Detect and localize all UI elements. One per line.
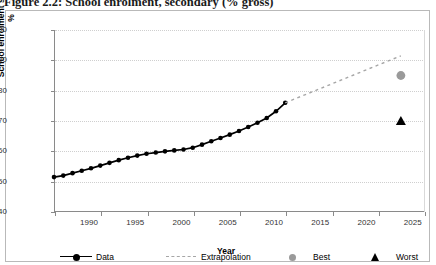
y-tick-label-70: 70 bbox=[0, 117, 7, 125]
x-tick-label-2010: 2010 bbox=[254, 218, 294, 227]
x-tick-label-2020: 2020 bbox=[347, 218, 387, 227]
y-tick-mark-80 bbox=[51, 91, 55, 92]
line-diamond-icon bbox=[60, 250, 92, 264]
chart-legend: DataExtrapolationBestWorst bbox=[5, 250, 430, 264]
gridline-y-70 bbox=[55, 121, 425, 122]
gridline-y-60 bbox=[55, 151, 425, 152]
x-tick-label-1995: 1995 bbox=[115, 218, 155, 227]
legend-label: Worst bbox=[396, 252, 418, 262]
y-tick-label-90: 90 bbox=[0, 56, 7, 64]
gridline-y-100 bbox=[55, 30, 425, 31]
y-tick-mark-60 bbox=[51, 151, 55, 152]
y-axis-title-text: School enrolment secondary, % bbox=[0, 0, 16, 77]
y-tick-label-80: 80 bbox=[0, 87, 7, 95]
x-tick-mark-2005 bbox=[194, 212, 195, 216]
legend-label: Extrapolation bbox=[201, 252, 251, 262]
figure-container: Figure 2.2: School enrolment, secondary … bbox=[0, 0, 436, 265]
x-tick-label-2015: 2015 bbox=[300, 218, 340, 227]
y-tick-label-50: 50 bbox=[0, 178, 7, 186]
y-axis-title: School enrolment secondary, % bbox=[0, 0, 16, 78]
x-tick-label-2005: 2005 bbox=[208, 218, 248, 227]
plot-area: 199019952000200520102015202020252030 bbox=[54, 30, 424, 212]
y-tick-mark-90 bbox=[51, 60, 55, 61]
dashed-line-icon bbox=[165, 250, 197, 264]
circle-icon bbox=[277, 250, 309, 264]
x-tick-mark-1990 bbox=[55, 212, 56, 216]
x-tick-mark-2000 bbox=[148, 212, 149, 216]
x-tick-label-2000: 2000 bbox=[162, 218, 202, 227]
x-tick-mark-2025 bbox=[379, 212, 380, 216]
y-tick-label-40: 40 bbox=[0, 208, 7, 216]
gridline-y-50 bbox=[55, 182, 425, 183]
y-tick-label-60: 60 bbox=[0, 147, 7, 155]
x-tick-label-1990: 1990 bbox=[69, 218, 109, 227]
x-tick-mark-2030 bbox=[425, 212, 426, 216]
y-tick-label-100: 100 bbox=[0, 26, 7, 34]
gridline-y-90 bbox=[55, 60, 425, 61]
x-tick-label-2025: 2025 bbox=[393, 218, 433, 227]
x-tick-mark-2020 bbox=[333, 212, 334, 216]
y-tick-mark-50 bbox=[51, 182, 55, 183]
legend-label: Best bbox=[313, 252, 330, 262]
x-tick-mark-1995 bbox=[101, 212, 102, 216]
triangle-icon bbox=[360, 250, 392, 264]
legend-label: Data bbox=[96, 252, 114, 262]
x-tick-mark-2010 bbox=[240, 212, 241, 216]
y-tick-mark-100 bbox=[51, 30, 55, 31]
x-tick-mark-2015 bbox=[286, 212, 287, 216]
plot-right-border bbox=[424, 30, 425, 212]
y-tick-mark-70 bbox=[51, 121, 55, 122]
gridline-y-80 bbox=[55, 91, 425, 92]
